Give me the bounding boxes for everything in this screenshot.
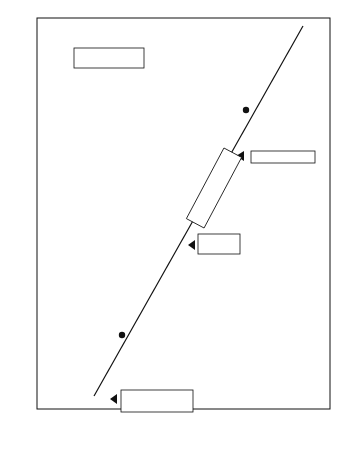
median-annotation [188,234,240,254]
pointer-arrow-icon [110,394,117,404]
chance-annotation [74,48,144,68]
plot-frame [37,18,330,409]
data-point-p10 [119,332,125,338]
pointer-arrow-icon [188,240,195,250]
mean-annotation [236,151,315,163]
mode-annotation [110,390,193,412]
variance-annotation [186,148,241,228]
data-point-p90 [243,107,249,113]
probability-chart [0,0,346,449]
